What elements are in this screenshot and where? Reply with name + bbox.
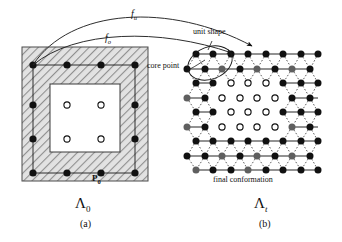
node-open: [263, 80, 269, 86]
node-filled: [210, 138, 217, 145]
node-filled: [131, 169, 138, 176]
node-filled: [280, 138, 287, 145]
node-filled: [307, 124, 314, 131]
node-open: [64, 102, 70, 108]
node-open: [263, 109, 269, 115]
figure-root: fu fo unit shape core point P0 final con…: [0, 0, 342, 242]
node-filled: [315, 109, 322, 116]
node-gray: [289, 124, 296, 131]
node-gray: [289, 66, 296, 73]
node-open: [272, 124, 278, 130]
node-filled: [131, 135, 138, 142]
node-open: [98, 136, 104, 142]
left-panel-group: [22, 47, 148, 181]
node-filled: [29, 135, 36, 142]
node-open: [98, 102, 104, 108]
right-panel-group: [184, 51, 322, 174]
node-filled: [315, 167, 322, 174]
node-open: [254, 124, 260, 130]
node-filled: [29, 101, 36, 108]
node-filled: [210, 51, 217, 58]
node-filled: [228, 138, 235, 145]
node-open: [245, 80, 251, 86]
node-filled: [237, 153, 244, 160]
label-lambda-t: Λt: [254, 196, 267, 214]
inner-white-square: [50, 84, 120, 152]
node-open: [228, 109, 234, 115]
node-filled: [307, 66, 314, 73]
node-gray: [254, 66, 261, 73]
node-open: [64, 136, 70, 142]
node-filled: [184, 66, 191, 73]
label-lambda-0: Λ0: [75, 196, 90, 214]
node-filled: [202, 66, 209, 73]
node-open: [245, 109, 251, 115]
label-f-lower: fo: [105, 33, 111, 46]
node-filled: [193, 80, 200, 87]
node-filled: [298, 109, 305, 116]
node-filled: [131, 101, 138, 108]
node-filled: [280, 51, 287, 58]
node-filled: [210, 167, 217, 174]
node-filled: [210, 80, 217, 87]
label-f-upper: fu: [131, 9, 137, 22]
node-filled: [280, 80, 287, 87]
node-filled: [184, 153, 191, 160]
node-filled: [307, 153, 314, 160]
node-filled: [245, 138, 252, 145]
node-filled: [263, 51, 270, 58]
node-filled: [315, 51, 322, 58]
node-gray: [219, 66, 226, 73]
node-filled: [280, 109, 287, 116]
node-filled: [263, 138, 270, 145]
node-filled: [228, 167, 235, 174]
node-filled: [245, 51, 252, 58]
node-gray: [254, 153, 261, 160]
node-filled: [307, 95, 314, 102]
figure-canvas: [0, 0, 342, 242]
node-filled: [193, 138, 200, 145]
unit-shape-ellipse: [183, 40, 238, 87]
node-filled: [202, 153, 209, 160]
label-core-point: core point: [147, 62, 179, 70]
node-filled: [29, 169, 36, 176]
node-gray: [184, 124, 191, 131]
node-open: [219, 95, 225, 101]
node-open: [237, 124, 243, 130]
node-gray: [193, 167, 200, 174]
node-filled: [272, 153, 279, 160]
node-filled: [97, 61, 104, 68]
node-open: [272, 95, 278, 101]
caption-a: (a): [80, 219, 91, 229]
node-filled: [289, 95, 296, 102]
label-unit-shape: unit shape: [193, 28, 226, 36]
node-filled: [315, 80, 322, 87]
node-filled: [202, 124, 209, 131]
node-filled: [280, 167, 287, 174]
node-filled: [202, 95, 209, 102]
node-filled: [237, 66, 244, 73]
node-gray: [219, 153, 226, 160]
node-filled: [272, 66, 279, 73]
node-open: [237, 95, 243, 101]
node-filled: [210, 109, 217, 116]
node-filled: [298, 167, 305, 174]
node-filled: [263, 167, 270, 174]
node-filled: [298, 80, 305, 87]
node-open: [219, 124, 225, 130]
node-filled: [298, 138, 305, 145]
node-gray: [289, 153, 296, 160]
node-filled: [131, 61, 138, 68]
node-filled: [63, 61, 70, 68]
lattice-nodes-middle: [184, 80, 322, 131]
node-filled: [63, 169, 70, 176]
node-open: [228, 80, 234, 86]
node-filled: [298, 51, 305, 58]
node-open: [254, 95, 260, 101]
node-gray: [245, 167, 252, 174]
node-filled: [193, 109, 200, 116]
node-filled: [315, 138, 322, 145]
lattice-nodes-bottom: [184, 138, 322, 174]
label-final-conformation: final conformation: [213, 176, 273, 184]
node-gray: [184, 95, 191, 102]
